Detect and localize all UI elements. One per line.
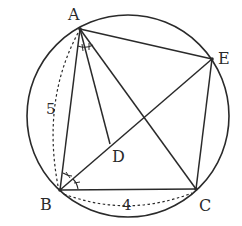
vertex-C <box>194 187 198 191</box>
label-E: E <box>218 49 230 68</box>
vertex-A <box>78 27 82 31</box>
geometry-diagram: A B C D E 5 4 <box>0 0 242 226</box>
length-BC: 4 <box>122 196 132 214</box>
segment-AE <box>80 29 212 59</box>
label-B: B <box>40 195 52 214</box>
measure-arc-AB <box>53 33 78 186</box>
vertex-E <box>210 57 214 61</box>
label-C: C <box>199 196 211 215</box>
angle-tick-A-1 <box>82 44 83 51</box>
length-AB: 5 <box>46 100 56 118</box>
segment-AC <box>80 29 196 189</box>
segment-AD <box>80 29 110 144</box>
segment-AB <box>60 29 80 190</box>
segment-BE <box>60 59 212 190</box>
segment-BC <box>60 189 196 190</box>
label-A: A <box>67 5 80 24</box>
angle-mark-B-2 <box>73 179 78 189</box>
circumcircle <box>27 15 229 217</box>
segment-CE <box>196 59 212 189</box>
angle-mark-A <box>78 45 93 47</box>
vertex-B <box>58 188 62 192</box>
label-D: D <box>112 147 125 166</box>
